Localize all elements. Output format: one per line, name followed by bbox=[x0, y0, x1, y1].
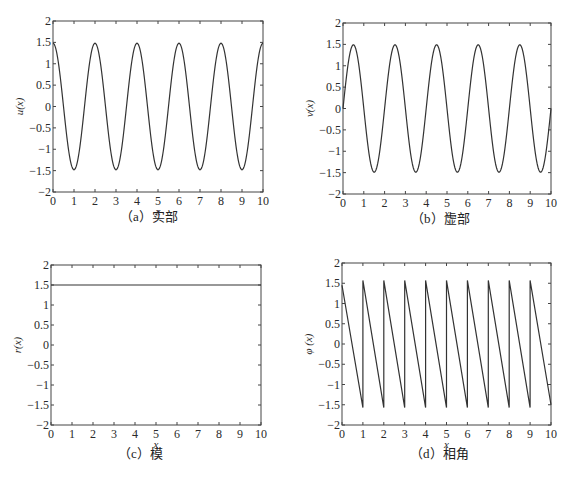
figure: 012345678910−2−1.5−1−0.500.511.52xu(x)01… bbox=[0, 0, 569, 480]
x-tick-label: 6 bbox=[174, 427, 180, 441]
subplot-c: 012345678910−2−1.5−1−0.500.511.52xr(x) bbox=[11, 258, 267, 450]
x-tick-label: 3 bbox=[402, 427, 408, 441]
subplot-d: 012345678910−2−1.5−1−0.500.511.52xφ (x) bbox=[302, 256, 557, 450]
x-tick-label: 1 bbox=[71, 194, 77, 208]
x-tick-label: 3 bbox=[402, 196, 408, 210]
y-axis-label: v(x) bbox=[303, 100, 316, 117]
x-tick-label: 8 bbox=[506, 427, 512, 441]
y-axis-label: u(x) bbox=[13, 97, 26, 115]
subplot-a: 012345678910−2−1.5−1−0.500.511.52xu(x) bbox=[13, 14, 269, 217]
y-tick-label: −1 bbox=[36, 378, 49, 392]
y-tick-label: 2 bbox=[335, 16, 341, 30]
caption-d: （d）相角 bbox=[410, 443, 469, 462]
x-tick-label: 3 bbox=[111, 427, 117, 441]
x-tick-label: 8 bbox=[216, 427, 222, 441]
x-tick-label: 9 bbox=[239, 194, 245, 208]
x-tick-label: 8 bbox=[506, 196, 512, 210]
y-tick-label: −0.5 bbox=[27, 358, 49, 372]
y-tick-label: 2 bbox=[334, 256, 340, 270]
y-tick-label: −1.5 bbox=[318, 398, 340, 412]
y-tick-label: 1 bbox=[43, 298, 49, 312]
y-axis-label: φ (x) bbox=[302, 333, 315, 354]
y-tick-label: −1 bbox=[327, 378, 340, 392]
y-tick-label: −0.5 bbox=[29, 121, 51, 135]
y-tick-label: −2 bbox=[38, 185, 51, 199]
y-tick-label: −0.5 bbox=[318, 357, 340, 371]
x-tick-label: 2 bbox=[382, 196, 388, 210]
y-tick-label: −2 bbox=[327, 418, 340, 432]
y-tick-label: 2 bbox=[43, 258, 49, 272]
data-line bbox=[53, 43, 263, 170]
y-tick-label: 2 bbox=[45, 14, 51, 28]
x-tick-label: 7 bbox=[486, 196, 492, 210]
y-tick-label: 0.5 bbox=[34, 318, 49, 332]
caption-b: （b）虚部 bbox=[411, 208, 470, 227]
x-tick-label: 1 bbox=[69, 427, 75, 441]
x-tick-label: 2 bbox=[90, 427, 96, 441]
caption-a: （a）实部 bbox=[120, 206, 178, 225]
x-tick-label: 4 bbox=[132, 427, 138, 441]
x-tick-label: 3 bbox=[113, 194, 119, 208]
y-tick-label: 1 bbox=[45, 57, 51, 71]
x-tick-label: 10 bbox=[545, 427, 557, 441]
y-tick-label: 1.5 bbox=[325, 276, 340, 290]
x-tick-label: 4 bbox=[423, 427, 429, 441]
y-tick-label: 0 bbox=[335, 102, 341, 116]
x-tick-label: 1 bbox=[360, 427, 366, 441]
x-tick-label: 9 bbox=[237, 427, 243, 441]
x-tick-label: 10 bbox=[255, 427, 267, 441]
y-tick-label: 1.5 bbox=[34, 278, 49, 292]
y-tick-label: 1.5 bbox=[36, 35, 51, 49]
y-tick-label: 0.5 bbox=[325, 317, 340, 331]
y-tick-label: −2 bbox=[36, 418, 49, 432]
data-line bbox=[342, 280, 551, 407]
y-tick-label: 1.5 bbox=[326, 37, 341, 51]
y-tick-label: −2 bbox=[328, 187, 341, 201]
y-tick-label: 0.5 bbox=[36, 78, 51, 92]
y-tick-label: 1 bbox=[335, 59, 341, 73]
data-line bbox=[343, 45, 551, 172]
x-tick-label: 7 bbox=[485, 427, 491, 441]
x-tick-label: 1 bbox=[361, 196, 367, 210]
x-tick-label: 10 bbox=[257, 194, 269, 208]
y-tick-label: −1 bbox=[328, 144, 341, 158]
x-tick-label: 2 bbox=[92, 194, 98, 208]
plot-canvas: 012345678910−2−1.5−1−0.500.511.52xu(x)01… bbox=[0, 0, 569, 480]
y-tick-label: −1.5 bbox=[319, 166, 341, 180]
axes-box bbox=[51, 265, 261, 425]
y-tick-label: −0.5 bbox=[319, 123, 341, 137]
x-tick-label: 8 bbox=[218, 194, 224, 208]
x-tick-label: 9 bbox=[527, 196, 533, 210]
x-tick-label: 2 bbox=[381, 427, 387, 441]
x-tick-label: 7 bbox=[195, 427, 201, 441]
y-tick-label: 0 bbox=[43, 338, 49, 352]
y-tick-label: −1 bbox=[38, 142, 51, 156]
y-tick-label: 0 bbox=[45, 100, 51, 114]
x-tick-label: 6 bbox=[464, 427, 470, 441]
x-tick-label: 9 bbox=[527, 427, 533, 441]
y-tick-label: 0 bbox=[334, 337, 340, 351]
y-tick-label: −1.5 bbox=[29, 164, 51, 178]
x-tick-label: 7 bbox=[197, 194, 203, 208]
x-tick-label: 10 bbox=[545, 196, 557, 210]
caption-c: （c）模 bbox=[118, 443, 163, 462]
y-tick-label: 1 bbox=[334, 297, 340, 311]
y-tick-label: 0.5 bbox=[326, 80, 341, 94]
y-tick-label: −1.5 bbox=[27, 398, 49, 412]
subplot-b: 012345678910−2−1.5−1−0.500.511.52xv(x) bbox=[303, 16, 557, 219]
y-axis-label: r(x) bbox=[11, 336, 24, 353]
